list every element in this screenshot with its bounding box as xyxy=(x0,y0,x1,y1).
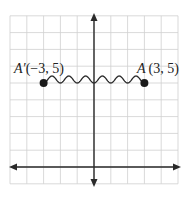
point-a xyxy=(140,79,148,87)
x-axis-right-arrow-icon xyxy=(173,164,181,171)
label-a: A(3, 5) xyxy=(136,61,179,77)
x-axis xyxy=(9,164,181,171)
point-a-prime xyxy=(40,79,48,87)
label-a-prime: A′(−3, 5) xyxy=(13,61,64,77)
coordinate-plane: A′(−3, 5) A(3, 5) xyxy=(0,0,189,197)
label-a-name: A xyxy=(136,61,146,76)
label-a-coords: (3, 5) xyxy=(149,61,180,77)
label-a-prime-coords: (−3, 5) xyxy=(26,61,65,77)
y-axis-up-arrow-icon xyxy=(91,13,98,21)
y-axis-down-arrow-icon xyxy=(91,179,98,187)
label-a-prime-name: A′ xyxy=(13,61,27,76)
